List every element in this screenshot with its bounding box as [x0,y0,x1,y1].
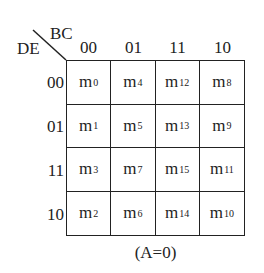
row-header-01: 01 [36,117,64,137]
minterm-cell: m2 [67,192,111,236]
row-header-00: 00 [36,73,64,93]
col-header-01: 01 [111,38,156,58]
minterm-cell: m10 [200,192,244,236]
map-caption: (A=0) [66,244,245,261]
minterm-cell: m6 [111,192,155,236]
minterm-cell: m15 [156,148,200,192]
minterm-cell: m3 [67,148,111,192]
minterm-cell: m11 [200,148,244,192]
minterm-cell: m1 [67,105,111,149]
minterm-cell: m7 [111,148,155,192]
minterm-cell: m0 [67,61,111,105]
row-header-10: 10 [36,205,64,225]
minterm-cell: m4 [111,61,155,105]
minterm-cell: m13 [156,105,200,149]
karnaugh-map-grid: m0 m4 m12 m8 m1 m5 m13 m9 m3 m7 m15 m11 … [66,60,245,236]
row-variable-label: DE [17,40,40,57]
row-header-11: 11 [36,161,64,181]
minterm-cell: m5 [111,105,155,149]
minterm-cell: m8 [200,61,244,105]
minterm-cell: m9 [200,105,244,149]
col-header-10: 10 [200,38,245,58]
minterm-cell: m12 [156,61,200,105]
col-header-11: 11 [155,38,200,58]
minterm-cell: m14 [156,192,200,236]
col-header-00: 00 [66,38,111,58]
